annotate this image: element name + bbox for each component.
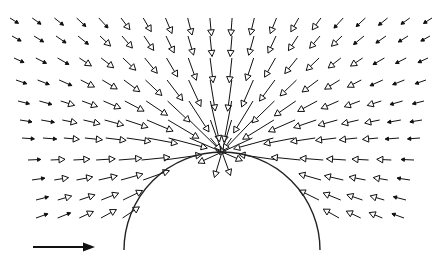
arrowhead-icon — [68, 83, 72, 86]
arrowhead-icon — [71, 119, 78, 125]
arrowhead-icon — [37, 158, 40, 162]
arrowhead-icon — [67, 212, 71, 215]
arrowhead-icon — [203, 125, 209, 132]
arrowhead-icon — [321, 103, 328, 109]
arrowhead-icon — [176, 94, 182, 101]
arrowhead-icon — [285, 67, 291, 74]
arrowhead-icon — [87, 211, 94, 217]
arrowhead-icon — [208, 50, 215, 56]
arrowhead-icon — [367, 101, 374, 107]
arrowhead-icon — [269, 126, 276, 132]
arrowhead-icon — [342, 119, 349, 125]
arrowhead-icon — [415, 81, 419, 84]
arrowhead-icon — [351, 60, 358, 66]
arrowhead-icon — [396, 60, 400, 63]
arrowhead-icon — [299, 172, 306, 178]
arrowhead-icon — [114, 103, 121, 109]
arrowhead-icon — [387, 120, 390, 123]
arrowhead-icon — [62, 40, 66, 43]
arrowhead-icon — [96, 136, 102, 143]
arrowhead-icon — [110, 210, 117, 216]
arrowhead-icon — [117, 120, 124, 126]
arrowhead-icon — [369, 212, 376, 218]
arrowhead-icon — [112, 192, 119, 198]
arrowhead-icon — [302, 86, 309, 92]
arrowhead-icon — [136, 172, 143, 178]
arrowhead-icon — [393, 82, 397, 85]
arrowhead-icon — [312, 23, 318, 30]
arrowhead-icon — [137, 105, 144, 111]
arrowhead-icon — [412, 101, 416, 104]
arrowhead-icon — [418, 60, 422, 63]
arrowhead-icon — [31, 137, 34, 141]
arrowhead-icon — [141, 122, 148, 128]
arrowhead-icon — [344, 102, 351, 108]
arrowhead-icon — [135, 155, 141, 162]
arrowhead-icon — [339, 136, 345, 143]
arrowhead-icon — [323, 209, 330, 215]
arrowhead-icon — [398, 39, 402, 42]
arrowhead-icon — [347, 194, 354, 200]
arrowhead-icon — [26, 101, 30, 104]
arrowhead-icon — [365, 119, 372, 125]
arrowhead-icon — [151, 67, 157, 74]
arrowhead-icon — [48, 102, 52, 105]
arrowhead-icon — [198, 157, 205, 163]
arrowhead-icon — [225, 169, 231, 176]
arrowhead-icon — [109, 156, 115, 163]
arrowhead-icon — [45, 196, 49, 199]
arrowhead-icon — [373, 175, 379, 182]
arrowhead-icon — [111, 174, 118, 180]
arrowhead-icon — [377, 156, 383, 163]
arrowhead-icon — [363, 136, 369, 143]
arrowhead-icon — [41, 177, 44, 180]
arrowhead-icon — [227, 50, 234, 56]
arrowhead-icon — [424, 20, 428, 23]
arrowhead-icon — [40, 39, 44, 42]
arrowhead-icon — [51, 120, 54, 123]
arrowhead-icon — [161, 109, 168, 115]
arrowhead-icon — [85, 60, 92, 66]
flow-direction-arrow — [33, 243, 95, 252]
arrowhead-icon — [327, 156, 333, 163]
arrowhead-icon — [397, 177, 400, 180]
arrowhead-icon — [227, 76, 234, 82]
arrowhead-icon — [37, 21, 41, 24]
arrowhead-icon — [167, 27, 173, 34]
arrowhead-icon — [274, 110, 281, 116]
arrowhead-icon — [421, 38, 425, 41]
arrowhead-icon — [166, 126, 173, 132]
arrowhead-icon — [269, 27, 275, 34]
arrowhead-icon — [43, 60, 47, 63]
arrowhead-icon — [300, 155, 306, 162]
arrowhead-icon — [234, 144, 241, 150]
arrowhead-icon — [288, 44, 294, 51]
arrowhead-icon — [59, 156, 65, 163]
arrowhead-icon — [298, 106, 305, 112]
arrowhead-icon — [352, 156, 358, 163]
arrowhead-icon — [228, 30, 235, 36]
arrowhead-icon — [88, 194, 95, 200]
arrowhead-icon — [347, 81, 354, 87]
arrowhead-icon — [349, 175, 356, 181]
arrowhead-icon — [148, 44, 154, 51]
arrowhead-icon — [29, 120, 32, 123]
arrowhead-icon — [213, 171, 219, 178]
semicircle-obstacle — [124, 152, 320, 250]
arrowhead-icon — [373, 61, 377, 64]
arrowhead-icon — [268, 46, 274, 53]
arrowhead-icon — [318, 121, 325, 127]
arrowhead-icon — [62, 175, 68, 182]
arrowhead-icon — [68, 100, 75, 106]
arrowhead-icon — [392, 213, 396, 216]
arrowhead-icon — [370, 194, 377, 200]
arrowhead-icon — [15, 20, 19, 23]
arrowhead-icon — [94, 119, 101, 125]
arrowhead-icon — [245, 74, 251, 81]
arrowhead-icon — [91, 101, 98, 107]
arrowhead-icon — [390, 102, 394, 105]
arrowhead-icon — [294, 123, 301, 129]
arrowhead-icon — [187, 28, 193, 35]
arrowhead-icon — [65, 194, 72, 200]
arrowhead-icon — [324, 174, 331, 180]
